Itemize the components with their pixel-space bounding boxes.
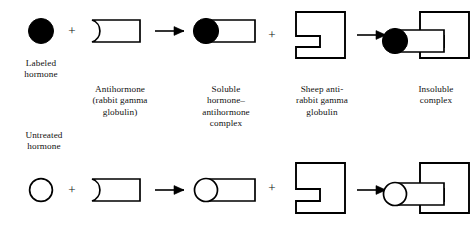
- caption-antihormone: Antihormone (rabbit gamma globulin): [74, 84, 166, 118]
- caption-untreated-hormone: Untreated hormone: [1, 130, 87, 153]
- arrow-right-icon-4: [357, 186, 386, 195]
- plus-operator-3: +: [62, 183, 82, 196]
- arrow-right-icon-1: [155, 27, 184, 36]
- plus-operator-1: +: [62, 24, 82, 37]
- sheep-anti-rabbit-shape: [296, 12, 345, 58]
- labeled-hormone-circle: [29, 19, 54, 44]
- caption-sheep-anti-rabbit: Sheep anti- rabbit gamma globulin: [276, 84, 368, 118]
- arrow-right-icon-2: [357, 31, 386, 40]
- plus-operator-2: +: [262, 28, 282, 41]
- caption-insoluble-complex: Insoluble complex: [396, 84, 476, 107]
- soluble-complex-shape: [193, 18, 255, 43]
- insoluble-complex-shape-bottom: [384, 163, 470, 213]
- insoluble-complex-shape: [382, 12, 469, 58]
- antihormone-shape-bottom: [92, 179, 140, 201]
- caption-labeled-hormone: Labeled hormone: [1, 58, 81, 81]
- caption-soluble-complex: Soluble hormone– antihormone complex: [180, 84, 272, 130]
- reaction-diagram: + + + + Labeled hormone Antihormone (rab…: [0, 0, 476, 226]
- untreated-hormone-circle: [30, 179, 53, 202]
- arrow-right-icon-3: [155, 186, 184, 195]
- antihormone-shape: [92, 20, 140, 42]
- sheep-anti-rabbit-shape-bottom: [296, 163, 345, 213]
- soluble-complex-shape-bottom: [195, 179, 256, 202]
- plus-operator-4: +: [262, 181, 282, 194]
